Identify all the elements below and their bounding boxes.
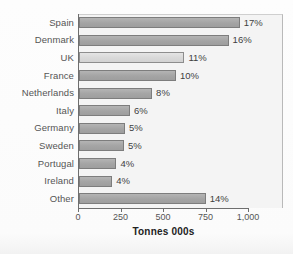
category-label-spain: Spain — [0, 18, 74, 28]
bar-italy — [79, 105, 130, 116]
bar-portugal — [79, 158, 116, 169]
category-label-portugal: Portugal — [0, 159, 74, 169]
bar-value-label: 10% — [180, 71, 199, 81]
bar-france — [79, 70, 176, 81]
bar-group: 4% — [79, 172, 130, 190]
category-label-italy: Italy — [0, 106, 74, 116]
bar-uk — [79, 52, 184, 63]
bar-row: Other14% — [0, 190, 293, 208]
bar-value-label: 5% — [129, 123, 143, 133]
bar-sweden — [79, 140, 124, 151]
bar-group: 17% — [79, 14, 263, 32]
bar-value-label: 5% — [128, 141, 142, 151]
bar-row: Denmark16% — [0, 32, 293, 50]
bar-row: Italy6% — [0, 102, 293, 120]
category-label-other: Other — [0, 194, 74, 204]
category-label-netherlands: Netherlands — [0, 88, 74, 98]
bar-value-label: 8% — [156, 88, 170, 98]
bar-spain — [79, 17, 240, 28]
tick-label: 750 — [198, 212, 213, 223]
tick-label: 250 — [113, 212, 128, 223]
bar-row: Spain17% — [0, 14, 293, 32]
bar-value-label: 16% — [233, 35, 252, 45]
tick-label: 0 — [75, 212, 80, 223]
bar-value-label: 6% — [134, 106, 148, 116]
bar-denmark — [79, 35, 229, 46]
bar-row: France10% — [0, 67, 293, 85]
chart-plot-area: Spain17%Denmark16%UK11%France10%Netherla… — [0, 0, 293, 254]
category-label-germany: Germany — [0, 123, 74, 133]
bar-group: 14% — [79, 190, 229, 208]
bar-group: 10% — [79, 67, 199, 85]
bar-value-label: 11% — [188, 53, 206, 63]
bar-group: 4% — [79, 155, 134, 173]
bar-rows: Spain17%Denmark16%UK11%France10%Netherla… — [0, 14, 293, 208]
category-label-france: France — [0, 71, 74, 81]
bar-ireland — [79, 176, 112, 187]
bar-group: 6% — [79, 102, 148, 120]
bar-value-label: 17% — [244, 18, 263, 28]
bar-germany — [79, 123, 125, 134]
bar-chart-figure: Spain17%Denmark16%UK11%France10%Netherla… — [0, 0, 293, 254]
bar-row: Germany5% — [0, 120, 293, 138]
category-label-denmark: Denmark — [0, 35, 74, 45]
bar-row: Portugal4% — [0, 155, 293, 173]
x-axis-title: Tonnes 000s — [78, 226, 249, 237]
category-label-ireland: Ireland — [0, 176, 74, 186]
tick-label: 500 — [155, 212, 170, 223]
bar-value-label: 4% — [120, 159, 134, 169]
bar-group: 5% — [79, 137, 142, 155]
bar-row: Netherlands8% — [0, 84, 293, 102]
category-label-sweden: Sweden — [0, 141, 74, 151]
bar-row: UK11% — [0, 49, 293, 67]
bar-row: Sweden5% — [0, 137, 293, 155]
bar-group: 5% — [79, 120, 143, 138]
bar-group: 11% — [79, 49, 207, 67]
bar-group: 8% — [79, 84, 170, 102]
bar-value-label: 4% — [116, 176, 130, 186]
bar-other — [79, 193, 206, 204]
bar-value-label: 14% — [210, 194, 229, 204]
category-label-uk: UK — [0, 53, 74, 63]
axis-tick-labels: 02505007501,000 — [0, 212, 293, 224]
bar-group: 16% — [79, 32, 252, 50]
tick-label: 1,000 — [237, 212, 260, 223]
bar-netherlands — [79, 88, 152, 99]
bar-row: Ireland4% — [0, 172, 293, 190]
